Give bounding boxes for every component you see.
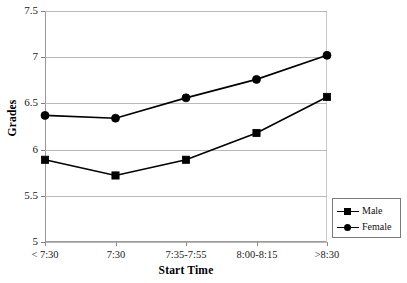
- x-tick-mark: [327, 242, 328, 246]
- y-tick-mark: [41, 196, 45, 197]
- gridline: [45, 103, 327, 104]
- x-tick-mark: [116, 242, 117, 246]
- x-tick-label: >8:30: [282, 249, 372, 261]
- gridline: [45, 57, 327, 58]
- legend-item-male: Male: [337, 204, 383, 218]
- legend-item-female: Female: [337, 220, 391, 234]
- y-axis-title: Grades: [6, 88, 18, 148]
- legend-marker-square-icon: [337, 205, 359, 217]
- y-tick-mark: [41, 103, 45, 104]
- legend-label: Female: [359, 221, 391, 233]
- y-tick-label: 7.5: [0, 5, 38, 16]
- y-tick-label: 5: [0, 236, 38, 247]
- x-tick-mark: [45, 242, 46, 246]
- gridline: [45, 150, 327, 151]
- plot-right-border: [326, 11, 327, 242]
- chart-figure: 55.566.577.5 < 7:307:307:35-7:558:00-8:1…: [0, 0, 407, 283]
- y-tick-mark: [41, 57, 45, 58]
- y-tick-label: 7: [0, 51, 38, 62]
- legend-label: Male: [359, 205, 383, 217]
- legend-marker-circle-icon: [337, 221, 359, 233]
- gridline: [45, 196, 327, 197]
- legend-marker-glyph: [344, 224, 351, 231]
- y-tick-label: 5.5: [0, 190, 38, 201]
- x-tick-mark: [257, 242, 258, 246]
- y-tick-mark: [41, 150, 45, 151]
- gridline: [45, 11, 327, 12]
- x-tick-mark: [186, 242, 187, 246]
- x-axis-title: Start Time: [45, 264, 327, 276]
- y-tick-mark: [41, 11, 45, 12]
- chart-legend: MaleFemale: [332, 198, 401, 238]
- plot-area: [45, 11, 327, 242]
- legend-marker-glyph: [344, 208, 351, 215]
